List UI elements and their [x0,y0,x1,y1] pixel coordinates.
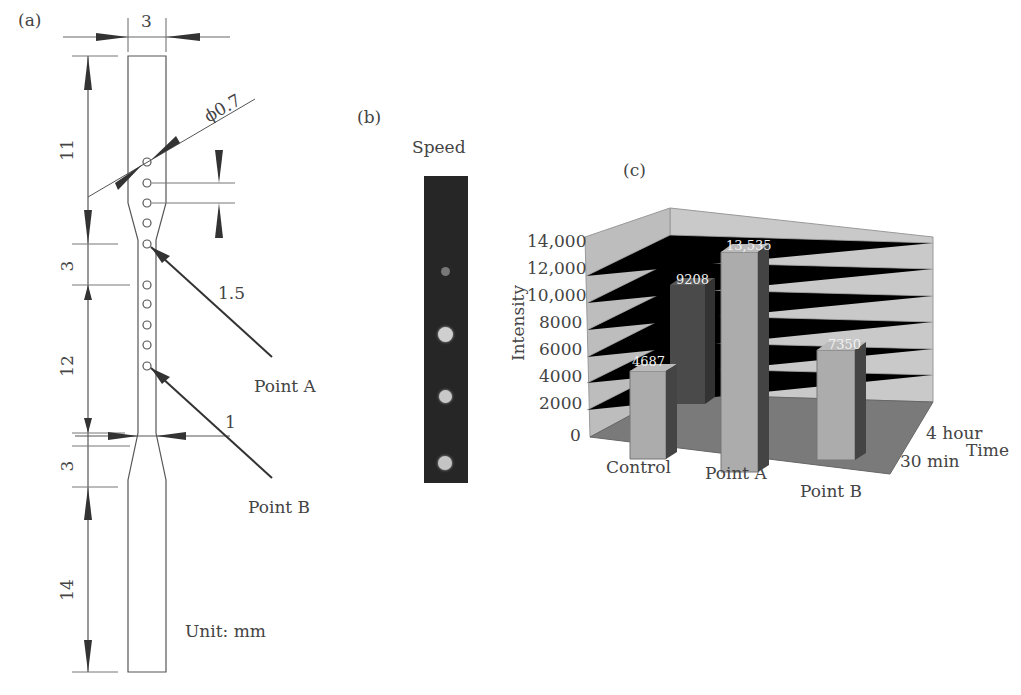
data-label-control-30min: 4687 [632,354,665,369]
y-tick-4000: 4000 [539,366,582,386]
y-tick-12000: 12,000 [527,258,586,278]
x-category-point-b: Point B [800,481,862,501]
y-tick-2000: 2000 [539,393,582,413]
y-tick-0: 0 [570,425,581,445]
x-category-point-a: Point A [705,463,767,483]
series-label-30min: 30 min [900,451,960,471]
z-axis-label: Time [966,440,1009,460]
data-label-pointa-30min: 13,535 [726,238,772,253]
y-tick-14000: 14,000 [527,231,586,251]
y-tick-8000: 8000 [539,312,582,332]
y-tick-6000: 6000 [539,339,582,359]
y-axis-label: Intensity [508,285,528,361]
y-tick-10000: 10,000 [527,285,586,305]
data-label-pointb-30min: 7350 [828,337,861,352]
data-label-control-4hour: 9208 [676,272,709,287]
x-category-control: Control [606,457,671,477]
